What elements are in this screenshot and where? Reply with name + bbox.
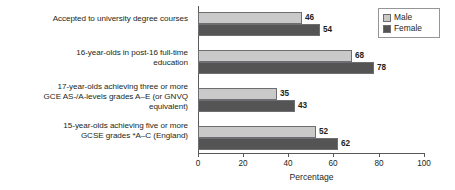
category-label-line: GCE AS-/A-levels grades A–E (or GNVQ xyxy=(2,92,188,102)
category-label-line: equivalent) xyxy=(2,102,188,112)
legend-label-female: Female xyxy=(394,23,422,34)
category-label-line: 17-year-olds achieving three or more xyxy=(2,82,188,92)
x-axis-line xyxy=(198,153,425,154)
category-label-0: Accepted to university degree courses xyxy=(2,14,188,24)
bar-chart: Accepted to university degree courses 16… xyxy=(0,0,455,190)
x-tick-2 xyxy=(288,153,289,157)
bar-value-male-1: 68 xyxy=(355,50,364,62)
x-tick-label-3: 60 xyxy=(328,159,337,169)
legend-label-male: Male xyxy=(394,12,412,23)
category-label-line: GCSE grades *A–C (England) xyxy=(2,131,188,141)
legend-swatch-female-icon xyxy=(383,25,391,33)
category-label-line: 16-year-olds in post-16 full-time xyxy=(2,48,188,58)
legend-item-female: Female xyxy=(383,23,435,34)
category-label-line: Accepted to university degree courses xyxy=(2,14,188,24)
x-tick-0 xyxy=(198,153,199,157)
bar-male-2 xyxy=(198,88,277,100)
bar-value-female-0: 54 xyxy=(323,24,332,36)
x-tick-label-2: 40 xyxy=(283,159,292,169)
bar-female-3 xyxy=(198,138,338,150)
x-tick-4 xyxy=(379,153,380,157)
bar-value-female-3: 62 xyxy=(341,138,350,150)
x-axis-title: Percentage xyxy=(198,172,425,182)
bar-male-3 xyxy=(198,126,316,138)
x-tick-3 xyxy=(333,153,334,157)
bar-female-0 xyxy=(198,24,320,36)
legend: Male Female xyxy=(378,8,440,38)
category-label-2: 17-year-olds achieving three or more GCE… xyxy=(2,82,188,113)
bar-male-1 xyxy=(198,50,352,62)
x-tick-1 xyxy=(243,153,244,157)
bar-value-male-2: 35 xyxy=(280,88,289,100)
category-label-1: 16-year-olds in post-16 full-time educat… xyxy=(2,48,188,68)
category-label-line: education xyxy=(2,58,188,68)
bar-female-2 xyxy=(198,100,295,112)
x-tick-label-1: 20 xyxy=(238,159,247,169)
bar-male-0 xyxy=(198,12,302,24)
legend-item-male: Male xyxy=(383,12,435,23)
x-tick-label-0: 0 xyxy=(196,159,201,169)
bar-female-1 xyxy=(198,62,374,74)
bar-value-male-0: 46 xyxy=(305,12,314,24)
bar-value-male-3: 52 xyxy=(319,126,328,138)
x-tick-label-5: 100 xyxy=(417,159,431,169)
bar-value-female-2: 43 xyxy=(298,100,307,112)
x-tick-5 xyxy=(424,153,425,157)
x-tick-label-4: 80 xyxy=(374,159,383,169)
category-label-3: 15-year-olds achieving five or more GCSE… xyxy=(2,121,188,141)
category-label-line: 15-year-olds achieving five or more xyxy=(2,121,188,131)
bar-value-female-1: 78 xyxy=(377,62,386,74)
legend-swatch-male-icon xyxy=(383,14,391,22)
